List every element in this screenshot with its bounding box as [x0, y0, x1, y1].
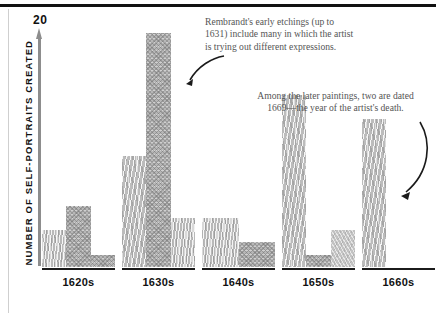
x-axis-label-1650s: 1650s [282, 276, 355, 288]
y-axis-title: NUMBER OF SELF-PORTRAITS CREATED [23, 46, 34, 266]
bar-1620s-3 [91, 255, 115, 267]
bar-1650s-3 [331, 230, 355, 267]
bar-1650s-2 [306, 255, 330, 267]
bar-1630s-3 [171, 218, 195, 267]
bar-1640s-2 [239, 242, 276, 267]
x-axis-label-1660s: 1660s [362, 276, 435, 288]
x-axis-label-1630s: 1630s [122, 276, 195, 288]
bar-1630s-2 [146, 33, 170, 267]
annotation-etchings: Rembrandt's early etchings (up to 1631) … [205, 16, 355, 53]
x-axis-label-1640s: 1640s [202, 276, 275, 288]
x-axis-label-1620s: 1620s [42, 276, 115, 288]
bar-group-baseline [282, 268, 355, 271]
bar-group-1620s [42, 14, 115, 267]
top-rule [0, 4, 436, 7]
bar-1620s-1 [42, 230, 66, 267]
bar-1630s-1 [122, 156, 146, 267]
annotation-arrow-etchings [168, 52, 228, 92]
bar-group-baseline [202, 268, 275, 271]
bar-group-bars [42, 14, 115, 267]
bar-group-baseline [362, 268, 435, 271]
bar-1620s-2 [66, 206, 90, 268]
bar-1650s-1 [282, 95, 306, 267]
left-margin-rule [8, 9, 9, 313]
annotation-paintings: Among the later paintings, two are dated… [253, 90, 418, 115]
bar-group-baseline [122, 268, 195, 271]
chart-page: 20 NUMBER OF SELF-PORTRAITS CREATED Remb… [0, 0, 436, 313]
bar-group-baseline [42, 268, 115, 271]
bar-1640s-1 [202, 218, 239, 267]
annotation-arrow-paintings [376, 120, 436, 210]
